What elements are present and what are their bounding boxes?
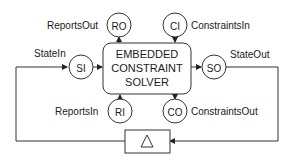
port-state-in: SI StateIn [34,48,93,79]
port-ri-abbr: RI [115,107,125,118]
port-reports-in: RI ReportsIn [55,99,132,123]
main-block-line-1: EMBEDDED [116,48,178,60]
port-ci-abbr: CI [170,21,180,32]
port-si-label: StateIn [34,48,66,59]
port-ro-label: ReportsOut [47,20,98,31]
delay-block [125,130,170,153]
port-ro-abbr: RO [112,21,127,32]
port-so-abbr: SO [207,63,222,74]
port-co-label: ConstraintsOut [191,106,258,117]
port-so-label: StateOut [230,49,270,60]
port-si-abbr: SI [76,63,85,74]
embedded-constraint-solver-block: EMBEDDED CONSTRAINT SOLVER [103,43,191,94]
port-reports-out: RO ReportsOut [47,13,131,37]
port-constraints-out: CO ConstraintsOut [163,99,258,123]
main-block-line-2: CONSTRAINT [111,62,183,74]
port-ci-label: ConstraintsIn [191,20,250,31]
port-constraints-in: CI ConstraintsIn [163,13,250,37]
main-block-line-3: SOLVER [125,76,169,88]
solver-diagram: EMBEDDED CONSTRAINT SOLVER SI StateIn SO… [0,0,293,160]
port-ri-label: ReportsIn [55,106,98,117]
port-state-out: SO StateOut [202,49,270,79]
port-co-abbr: CO [168,107,183,118]
